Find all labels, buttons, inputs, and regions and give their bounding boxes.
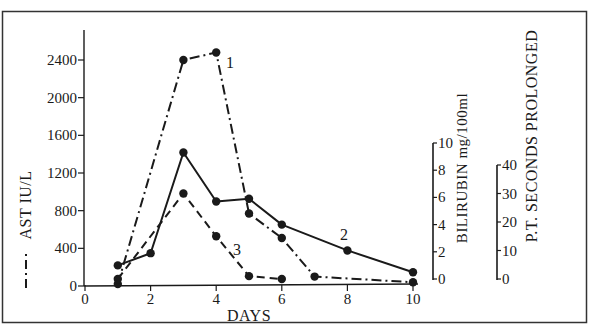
pt-tick-label: 20: [502, 214, 517, 230]
data-point: [245, 195, 253, 203]
data-point: [409, 268, 417, 276]
pt-axis: 010203040: [497, 157, 517, 287]
pt-tick-label: 10: [502, 243, 517, 259]
series-1-line: [118, 53, 413, 285]
bilirubin-tick-label: 8: [438, 162, 446, 178]
bilirubin-axis: 0246810: [433, 135, 453, 287]
x-tick-label: 4: [212, 291, 220, 307]
data-point: [278, 275, 286, 283]
chart: 04008001200160020002400 0246810 0246810 …: [0, 0, 590, 328]
data-point: [343, 246, 351, 254]
pt-axis-title: P.T. SECONDS PROLONGED: [523, 30, 540, 243]
ast-tick-label: 2400: [47, 52, 77, 68]
series-3: [114, 189, 286, 283]
x-tick-label: 8: [344, 291, 352, 307]
ast-tick-label: 2000: [47, 90, 77, 106]
data-point: [179, 189, 187, 197]
ast-tick-label: 1200: [47, 165, 77, 181]
pt-tick-label: 40: [502, 157, 517, 173]
ast-tick-label: 800: [55, 203, 78, 219]
x-tick-label: 6: [278, 291, 286, 307]
data-point: [179, 148, 187, 156]
x-axis-line: [84, 284, 418, 286]
data-point: [245, 209, 253, 217]
series-1-label: 1: [226, 54, 234, 71]
series-2: [114, 148, 418, 276]
data-point: [409, 278, 417, 286]
data-point: [179, 56, 187, 64]
data-point: [278, 234, 286, 242]
ast-tick-label: 1600: [47, 127, 77, 143]
pt-tick-label: 30: [502, 186, 517, 202]
series-1: [114, 48, 418, 288]
bilirubin-tick-label: 2: [438, 244, 446, 260]
data-point: [146, 249, 154, 257]
data-point: [212, 232, 220, 240]
x-axis: 0246810: [81, 284, 420, 307]
ast-tick-label: 400: [55, 240, 78, 256]
ast-axis: 04008001200160020002400: [47, 30, 84, 294]
data-point: [278, 220, 286, 228]
data-point: [114, 261, 122, 269]
x-axis-title: DAYS: [227, 307, 271, 324]
ast-axis-title: AST IU/L: [17, 170, 34, 239]
pt-tick-label: 0: [502, 271, 510, 287]
data-point: [114, 275, 122, 283]
bilirubin-axis-title: BILIRUBIN mg/100ml: [454, 93, 470, 243]
series-layer: [114, 48, 418, 288]
bilirubin-tick-label: 6: [438, 189, 446, 205]
chart-frame: [3, 12, 587, 323]
bilirubin-tick-label: 10: [438, 135, 453, 151]
bilirubin-tick-label: 4: [438, 217, 446, 233]
ast-tick-label: 0: [70, 278, 78, 294]
data-point: [212, 197, 220, 205]
x-tick-label: 10: [406, 291, 421, 307]
data-point: [245, 272, 253, 280]
x-tick-label: 2: [147, 291, 155, 307]
series-2-label: 2: [340, 226, 348, 243]
x-tick-label: 0: [81, 291, 89, 307]
series-3-label: 3: [233, 241, 241, 258]
bilirubin-tick-label: 0: [438, 271, 446, 287]
data-point: [212, 48, 220, 56]
data-point: [310, 272, 318, 280]
series-2-line: [118, 153, 413, 273]
ast-axis-legend: AST IU/L: [17, 170, 34, 288]
